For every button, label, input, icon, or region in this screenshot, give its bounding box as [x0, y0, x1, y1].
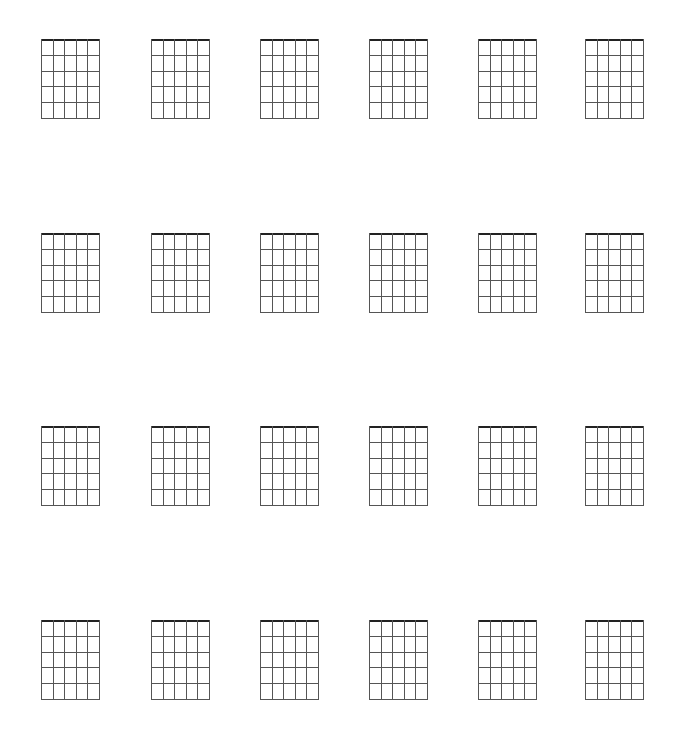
string-line [536, 620, 537, 700]
fret-line [151, 118, 210, 119]
chord-diagram [369, 620, 428, 700]
fret-line [585, 265, 644, 266]
fret-line [478, 118, 537, 119]
string-line [283, 620, 284, 700]
chord-diagram [260, 39, 319, 119]
fret-line [478, 312, 537, 313]
string-line [392, 426, 393, 506]
chord-diagram [585, 426, 644, 506]
string-line [186, 620, 187, 700]
string-line [306, 620, 307, 700]
fret-line [369, 102, 428, 103]
fret-line [260, 118, 319, 119]
string-line [404, 233, 405, 313]
fret-line [41, 699, 100, 700]
string-line [490, 39, 491, 119]
fret-line [369, 652, 428, 653]
string-line [260, 233, 261, 313]
fret-line [260, 505, 319, 506]
fret-line [585, 312, 644, 313]
string-line [381, 426, 382, 506]
string-line [620, 426, 621, 506]
fret-line [369, 683, 428, 684]
string-line [427, 39, 428, 119]
fret-line [369, 489, 428, 490]
fret-line [585, 652, 644, 653]
fret-line [41, 636, 100, 637]
string-line [64, 233, 65, 313]
string-line [501, 426, 502, 506]
nut-line [478, 620, 537, 622]
fret-line [585, 683, 644, 684]
string-line [295, 233, 296, 313]
fret-line [585, 442, 644, 443]
fret-line [585, 86, 644, 87]
string-line [186, 426, 187, 506]
string-line [163, 39, 164, 119]
fret-line [369, 296, 428, 297]
string-line [64, 620, 65, 700]
fret-line [151, 265, 210, 266]
nut-line [41, 233, 100, 235]
string-line [631, 620, 632, 700]
fret-line [260, 55, 319, 56]
fret-line [260, 683, 319, 684]
string-line [490, 426, 491, 506]
string-line [381, 39, 382, 119]
fret-line [260, 280, 319, 281]
string-line [99, 39, 100, 119]
chord-diagram [585, 39, 644, 119]
string-line [283, 39, 284, 119]
fret-line [260, 86, 319, 87]
fret-line [585, 699, 644, 700]
nut-line [478, 426, 537, 428]
fret-line [151, 71, 210, 72]
fret-line [260, 636, 319, 637]
string-line [41, 620, 42, 700]
string-line [186, 233, 187, 313]
fret-line [585, 55, 644, 56]
nut-line [260, 620, 319, 622]
fret-line [369, 442, 428, 443]
string-line [53, 426, 54, 506]
string-line [209, 39, 210, 119]
chord-diagram [585, 233, 644, 313]
string-line [64, 426, 65, 506]
fret-line [478, 667, 537, 668]
string-line [197, 426, 198, 506]
fret-line [585, 249, 644, 250]
string-line [608, 426, 609, 506]
string-line [585, 620, 586, 700]
fret-line [369, 636, 428, 637]
fret-line [41, 55, 100, 56]
fret-line [151, 667, 210, 668]
string-line [163, 620, 164, 700]
string-line [501, 39, 502, 119]
string-line [272, 426, 273, 506]
fret-line [151, 442, 210, 443]
string-line [608, 233, 609, 313]
fret-line [151, 652, 210, 653]
string-line [209, 426, 210, 506]
fret-line [369, 473, 428, 474]
chord-chart-sheet [0, 0, 680, 730]
nut-line [151, 426, 210, 428]
fret-line [151, 102, 210, 103]
fret-line [151, 280, 210, 281]
string-line [53, 620, 54, 700]
string-line [620, 233, 621, 313]
fret-line [478, 86, 537, 87]
fret-line [369, 55, 428, 56]
nut-line [478, 39, 537, 41]
string-line [490, 233, 491, 313]
string-line [608, 39, 609, 119]
fret-line [478, 505, 537, 506]
fret-line [478, 102, 537, 103]
fret-line [260, 312, 319, 313]
string-line [381, 620, 382, 700]
fret-line [41, 265, 100, 266]
fret-line [151, 55, 210, 56]
string-line [76, 426, 77, 506]
nut-line [151, 620, 210, 622]
string-line [174, 426, 175, 506]
